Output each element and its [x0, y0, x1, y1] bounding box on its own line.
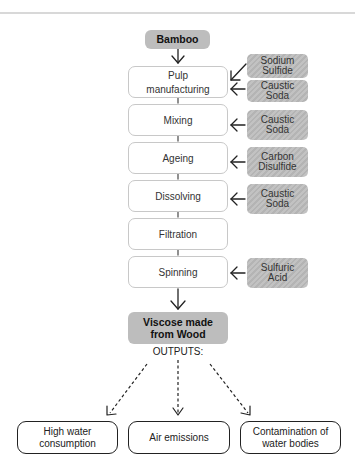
step-ageing: Ageing	[128, 142, 228, 174]
output-line1: Contamination of	[253, 426, 329, 438]
chemical-caustic-soda-dissolving: Caustic Soda	[247, 184, 308, 214]
step-label: Mixing	[164, 115, 193, 126]
step-label: Spinning	[159, 267, 198, 278]
step-pulp-manufacturing: Pulp manufacturing	[128, 66, 228, 98]
chemical-caustic-soda-pulp: Caustic Soda	[247, 80, 308, 102]
chemical-sulfuric-acid: Sulfuric Acid	[247, 258, 308, 288]
step-dissolving: Dissolving	[128, 180, 228, 212]
source-label: Bamboo	[157, 34, 199, 45]
step-mixing: Mixing	[128, 104, 228, 136]
output-line2: consumption	[39, 438, 96, 450]
output-air-emissions: Air emissions	[128, 421, 230, 454]
step-filtration: Filtration	[128, 218, 228, 250]
chemical-line2: Soda	[266, 91, 289, 101]
step-label: Ageing	[162, 153, 193, 164]
step-label: Filtration	[159, 229, 197, 240]
chemical-line2: Soda	[266, 199, 289, 209]
output-line1: Air emissions	[149, 432, 208, 444]
output-line1: High water	[44, 426, 92, 438]
output-contamination-water-bodies: Contamination of water bodies	[240, 421, 341, 454]
product-node-viscose: Viscose made from Wood	[128, 312, 228, 344]
product-line1: Viscose made	[143, 316, 213, 328]
output-high-water-consumption: High water consumption	[17, 421, 118, 454]
chemical-line2: Sulfide	[262, 66, 293, 76]
source-node-bamboo: Bamboo	[145, 30, 210, 49]
step-label-line1: Pulp	[168, 70, 188, 81]
product-line2: from Wood	[150, 328, 205, 340]
chemical-caustic-soda-mixing: Caustic Soda	[247, 110, 308, 140]
step-label-line2: manufacturing	[146, 84, 209, 95]
chemical-line2: Acid	[268, 273, 287, 283]
chemical-line2: Soda	[266, 125, 289, 135]
outputs-heading: OUTPUTS:	[128, 346, 228, 357]
chemical-carbon-disulfide: Carbon Disulfide	[247, 147, 308, 177]
chemical-line2: Disulfide	[258, 162, 296, 172]
step-label: Dissolving	[155, 191, 201, 202]
chemical-sodium-sulfide: Sodium Sulfide	[247, 54, 308, 78]
output-line2: water bodies	[262, 438, 319, 450]
step-spinning: Spinning	[128, 256, 228, 288]
